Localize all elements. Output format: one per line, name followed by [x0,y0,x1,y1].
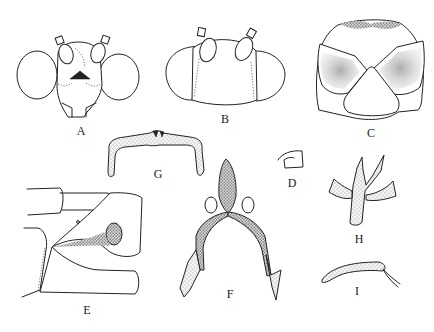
left-wing [329,179,352,199]
left-lobe [205,197,217,213]
panel-h-branched-sclerite: H [329,155,396,246]
panel-label-d: D [288,176,297,190]
left-antenna-tip [197,28,205,37]
left-antenna-segment [55,36,64,45]
right-antenna-tip [246,28,256,38]
tergite-upper [27,188,63,215]
panel-c-thoracic-plates: C [316,20,424,140]
right-lobe [242,197,254,213]
panel-a-head-frontal: A [17,35,139,138]
panel-label-g: G [154,167,163,181]
aedeagus-central [219,159,236,213]
panel-label-b: B [221,112,229,126]
left-paramere-arm [196,212,228,270]
panel-g-arched-sclerite: G [108,131,204,181]
left-blade [180,250,200,297]
panel-b-head-dorsal: B [166,28,285,126]
panel-f-genitalia-ventral: F [180,159,281,301]
curved-process [322,262,385,283]
right-compound-eye [99,54,139,100]
right-paramere-arm [228,212,271,276]
right-eye-lobe [253,51,285,101]
hook-structure [278,151,303,168]
panel-label-h: H [355,232,364,246]
panel-label-a: A [77,124,86,138]
morphology-plate: A B C G D [0,0,434,332]
panel-label-f: F [227,287,234,301]
panel-e-terminalia-lateral: E [22,188,142,317]
panel-d-hook: D [278,151,303,190]
panel-label-e: E [83,303,90,317]
left-compound-eye [17,51,57,99]
ovipositor-valve-upper [52,193,142,257]
spermatheca [106,223,122,245]
right-antenna-segment [101,35,110,44]
branched-sclerite [350,155,384,225]
spiracle [77,221,80,224]
panel-label-c: C [367,126,375,140]
panel-i-curved-process: I [322,262,400,298]
panel-label-i: I [355,284,359,298]
